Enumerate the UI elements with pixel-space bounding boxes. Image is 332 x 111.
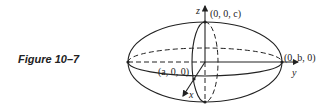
y-axis-label: y — [291, 67, 297, 78]
x-axis-label: x — [188, 89, 194, 100]
point-top-label: (0, 0, c) — [210, 8, 241, 20]
point-right-label: (0, b, 0) — [284, 52, 316, 64]
point-bottom — [203, 100, 206, 103]
point-left — [126, 60, 129, 63]
z-axis-label: z — [195, 5, 200, 16]
point-front — [192, 77, 195, 80]
point-front-label: (a, 0, 0) — [158, 66, 189, 78]
point-top — [203, 20, 206, 23]
ellipsoid-diagram: z y x (0, 0, c) (0, b, 0) (a, 0, 0) — [0, 0, 332, 111]
